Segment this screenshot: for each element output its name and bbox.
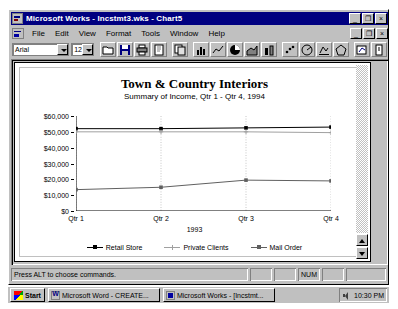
start-button[interactable]: Start (10, 288, 45, 302)
child-restore-button[interactable]: ❐ (363, 28, 375, 39)
open-icon[interactable] (100, 42, 116, 57)
scroll-down-button[interactable] (356, 247, 368, 259)
y-axis-tick (71, 116, 74, 117)
minimize-button[interactable]: _ (349, 13, 361, 24)
works-icon (166, 291, 175, 300)
x-axis-tick-label: Qtr 4 (323, 215, 339, 222)
speaker-icon[interactable] (342, 291, 351, 300)
copy-icon[interactable] (172, 42, 188, 57)
menu-item-format[interactable]: Format (101, 28, 136, 39)
print-icon[interactable] (134, 42, 150, 57)
taskbar-item-works[interactable]: Microsoft Works - [Incstmt... (163, 288, 275, 302)
chart-subtitle[interactable]: Summary of Income, Qtr 1 - Qtr 4, 1994 (20, 92, 369, 101)
desktop: Microsoft Works - Incstmt3.wks - Chart5 … (0, 0, 398, 309)
plot-area[interactable] (76, 116, 331, 211)
close-button[interactable]: × (375, 13, 387, 24)
menu-item-window[interactable]: Window (165, 28, 203, 39)
series-line[interactable] (76, 127, 331, 129)
data-point-marker[interactable] (329, 130, 331, 134)
xy-chart-icon[interactable] (282, 42, 298, 57)
minimize-icon: _ (350, 14, 360, 23)
close-icon: × (376, 14, 386, 23)
legend-item[interactable]: Private Clients (164, 244, 228, 251)
taskbar-item-word[interactable]: Microsoft Word - CREATE... (48, 288, 160, 302)
menu-item-view[interactable]: View (74, 28, 101, 39)
legend-label: Private Clients (183, 244, 228, 251)
radar-chart-icon[interactable] (333, 42, 349, 57)
font-size-combo[interactable]: 12 (71, 43, 94, 56)
combo-chart-icon[interactable] (299, 42, 315, 57)
series-line[interactable] (76, 180, 331, 190)
menu-bar: File Edit View Format Tools Window Help … (11, 27, 388, 40)
system-tray: 10:30 PM (339, 288, 387, 302)
menu-item-edit[interactable]: Edit (50, 28, 74, 39)
3d-chart-icon[interactable] (316, 42, 332, 57)
legend-item[interactable]: Mail Order (251, 244, 303, 251)
menu-item-file[interactable]: File (27, 28, 50, 39)
scrollbar-track[interactable] (356, 65, 368, 233)
restore-icon: ❐ (363, 14, 373, 23)
bar-chart-icon[interactable] (193, 42, 209, 57)
legend-item[interactable]: Retail Store (87, 244, 143, 251)
area-chart-icon[interactable] (244, 42, 260, 57)
x-axis-tick-label: Qtr 3 (238, 215, 254, 222)
data-point-marker[interactable] (329, 179, 331, 183)
status-bar: Press ALT to choose commands. NUM (11, 267, 388, 282)
font-name-value: Arial (13, 46, 57, 53)
stacked-bar-chart-icon[interactable] (261, 42, 277, 57)
chart-page-border: Town & Country Interiors Summary of Inco… (19, 67, 366, 257)
chart-title[interactable]: Town & Country Interiors (20, 76, 369, 92)
child-window-controls: _ ❐ × (350, 28, 388, 39)
data-point-marker[interactable] (244, 126, 248, 130)
window-controls: _ ❐ × (349, 13, 387, 24)
y-axis-tick (71, 148, 74, 149)
x-axis-title[interactable]: 1993 (20, 226, 369, 233)
status-cell-5 (346, 268, 386, 281)
data-point-marker[interactable] (159, 185, 163, 189)
series-line[interactable] (76, 132, 331, 133)
title-bar: Microsoft Works - Incstmt3.wks - Chart5 … (11, 12, 388, 25)
legend-marker-icon (251, 244, 267, 251)
application-window: Microsoft Works - Incstmt3.wks - Chart5 … (8, 9, 389, 285)
x-axis: Qtr 1Qtr 2Qtr 3Qtr 4 (76, 213, 331, 225)
y-axis: $0$10,000$20,000$30,000$40,000$50,000$60… (18, 116, 74, 211)
windows-logo-icon (14, 291, 23, 300)
font-name-combo[interactable]: Arial (12, 43, 69, 56)
help-icon[interactable] (371, 42, 387, 57)
child-close-button[interactable]: × (376, 28, 388, 39)
x-axis-tick-label: Qtr 1 (68, 215, 84, 222)
status-cell-1 (250, 268, 272, 281)
legend-marker-icon (164, 244, 180, 251)
chart[interactable]: Town & Country Interiors Summary of Inco… (20, 68, 369, 260)
status-cell-2 (274, 268, 296, 281)
data-point-marker[interactable] (76, 188, 78, 192)
line-chart-icon[interactable] (210, 42, 226, 57)
vertical-scrollbar[interactable] (356, 65, 368, 259)
taskbar-item-label: Microsoft Word - CREATE... (62, 292, 149, 299)
clock[interactable]: 10:30 PM (354, 292, 384, 299)
close-icon: × (377, 29, 387, 38)
legend-label: Mail Order (270, 244, 303, 251)
legend-marker-icon (87, 244, 103, 251)
restore-button[interactable]: ❐ (362, 13, 374, 24)
menu-item-tools[interactable]: Tools (136, 28, 165, 39)
chevron-down-icon[interactable] (82, 44, 93, 55)
minimize-icon: _ (351, 29, 361, 38)
save-icon[interactable] (117, 42, 133, 57)
insert-chart-icon[interactable] (354, 42, 370, 57)
print-preview-icon[interactable] (151, 42, 167, 57)
data-point-marker[interactable] (329, 125, 331, 129)
child-minimize-button[interactable]: _ (350, 28, 362, 39)
menu-item-help[interactable]: Help (203, 28, 229, 39)
document-icon[interactable] (12, 28, 24, 39)
data-point-marker[interactable] (244, 178, 248, 182)
plot-svg (76, 116, 331, 211)
chart-legend[interactable]: Retail StorePrivate ClientsMail Order (20, 244, 369, 251)
y-axis-tick-label: $60,000 (44, 113, 69, 120)
chevron-down-icon[interactable] (57, 44, 68, 55)
data-point-marker[interactable] (244, 130, 248, 134)
taskbar: Start Microsoft Word - CREATE... Microso… (8, 286, 389, 303)
pie-chart-icon[interactable] (227, 42, 243, 57)
y-axis-tick (71, 179, 74, 180)
scroll-up-button[interactable] (356, 234, 368, 246)
